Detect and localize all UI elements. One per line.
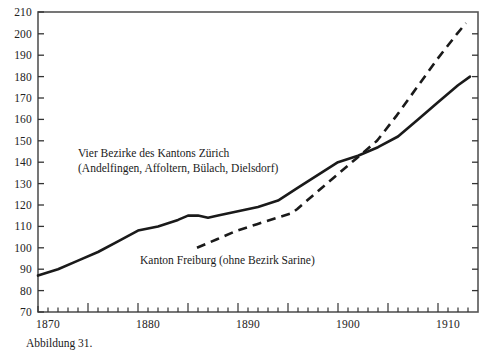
- line-chart: [0, 0, 494, 360]
- y-tick-label-130: 130: [2, 178, 32, 190]
- y-tick-label-170: 170: [2, 92, 32, 104]
- x-tick-label-1890: 1890: [226, 318, 270, 330]
- y-tick-label-100: 100: [2, 242, 32, 254]
- series-label-zurich-line1: Vier Bezirke des Kantons Zürich: [78, 147, 229, 159]
- y-tick-label-70: 70: [2, 306, 32, 318]
- y-tick-label-120: 120: [2, 199, 32, 211]
- series-label-freiburg-line1: Kanton Freiburg (ohne Bezirk Sarine): [140, 254, 315, 266]
- y-tick-label-110: 110: [2, 220, 32, 232]
- y-tick-label-80: 80: [2, 285, 32, 297]
- y-tick-label-200: 200: [2, 28, 32, 40]
- series-label-zurich-line2: (Andelfingen, Affoltern, Bülach, Dielsdo…: [78, 161, 278, 176]
- x-tick-label-1870: 1870: [26, 318, 70, 330]
- x-tick-label-1880: 1880: [126, 318, 170, 330]
- y-tick-label-90: 90: [2, 263, 32, 275]
- y-tick-label-210: 210: [2, 6, 32, 18]
- y-tick-label-140: 140: [2, 156, 32, 168]
- figure-caption: Abbildung 31.: [26, 337, 92, 349]
- y-tick-label-190: 190: [2, 49, 32, 61]
- y-tick-label-180: 180: [2, 71, 32, 83]
- x-tick-label-1900: 1900: [326, 318, 370, 330]
- figure-container: 70 80 90 100 110 120 130 140 150 160 170…: [0, 0, 494, 360]
- series-label-zurich: Vier Bezirke des Kantons Zürich (Andelfi…: [78, 146, 278, 176]
- x-tick-label-1910: 1910: [426, 318, 470, 330]
- y-tick-label-150: 150: [2, 135, 32, 147]
- series-label-freiburg: Kanton Freiburg (ohne Bezirk Sarine): [140, 253, 315, 268]
- y-tick-label-160: 160: [2, 113, 32, 125]
